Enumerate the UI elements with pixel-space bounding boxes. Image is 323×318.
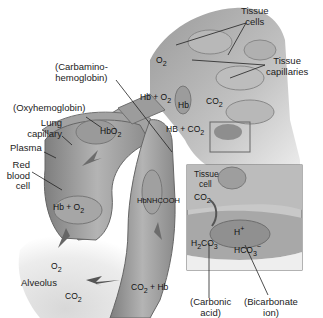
inset-cell-nucleus xyxy=(218,167,246,189)
label-line: cell xyxy=(194,180,219,190)
tissue-cell-shape xyxy=(216,66,264,90)
chem-sub: 2 xyxy=(78,296,82,304)
label-line: acid) xyxy=(190,308,231,318)
label-alveolus: Alveolus xyxy=(21,278,57,289)
chem-hb-tissue: Hb xyxy=(178,101,189,110)
label-line: capillary xyxy=(22,129,62,140)
chem-hbnhcooh: HbNHCOOH xyxy=(137,196,180,205)
label-line: hemoglobin) xyxy=(55,73,108,84)
chem-o2-alveolus: O2 xyxy=(51,262,62,275)
chem-text: CO xyxy=(194,192,207,202)
chem-text: HbO xyxy=(100,126,117,136)
label-line: Red xyxy=(0,160,30,171)
tissue-cell-shape xyxy=(226,100,274,124)
label-line: (Carbamino- xyxy=(55,62,108,73)
chem-text: Hb + O xyxy=(53,202,80,212)
red-blood-cell-shape xyxy=(142,170,162,214)
chem-sub: 2 xyxy=(144,287,148,295)
chem-co2-plus-hb: CO2 + Hb xyxy=(131,283,168,296)
chem-text: CO xyxy=(131,282,144,292)
label-tissue-capillaries: Tissue capillaries xyxy=(266,56,308,77)
label-line: (Bicarbonate xyxy=(244,297,298,308)
chem-inset-co2: CO2 xyxy=(194,193,211,206)
label-red-blood-cell: Red blood cell xyxy=(0,160,30,192)
chem-h-plus: H+ xyxy=(234,225,244,237)
chem-sup: − xyxy=(257,243,261,251)
chem-sub: 2 xyxy=(58,266,62,274)
chem-sub: 2 xyxy=(167,97,171,105)
label-line: capillaries xyxy=(266,67,308,78)
chem-text: HCO xyxy=(234,245,253,255)
label-line: ion) xyxy=(244,308,298,318)
chem-h2co3: H2CO3 xyxy=(191,239,218,252)
label-bicarbonate-ion: (Bicarbonate ion) xyxy=(244,297,298,318)
chem-text: CO xyxy=(201,238,214,248)
chem-hb-plus-o2-tissue: Hb + O2 xyxy=(140,93,171,106)
chem-hbo2: HbO2 xyxy=(100,127,121,140)
chem-sub: 2 xyxy=(207,197,211,205)
label-inset-tissue-cell: Tissue cell xyxy=(194,170,219,189)
chem-text: + Hb xyxy=(150,282,168,292)
chem-text: HB + CO xyxy=(166,124,200,134)
chem-sup: + xyxy=(240,225,244,233)
label-line: Tissue xyxy=(241,6,269,17)
label-tissue-cells: Tissue cells xyxy=(241,6,269,27)
chem-hco3: HCO3− xyxy=(234,243,261,259)
chem-sub: 2 xyxy=(219,101,223,109)
label-line: cell xyxy=(0,181,30,192)
chem-text: CO xyxy=(206,96,219,106)
chem-text: CO xyxy=(65,291,78,301)
label-carbamino-hemoglobin: (Carbamino- hemoglobin) xyxy=(55,62,108,83)
red-blood-cell-shape xyxy=(214,124,242,140)
chem-sub: 2 xyxy=(200,129,204,137)
chem-sub: 2 xyxy=(80,207,84,215)
chem-text: O xyxy=(156,55,163,65)
label-line: Lung xyxy=(22,118,62,129)
label-line: cells xyxy=(241,17,269,28)
chem-text: Hb + O xyxy=(140,92,167,102)
chem-sub: 2 xyxy=(163,60,167,68)
diagram-illustration xyxy=(0,0,323,318)
label-line: (Carbonic xyxy=(190,297,231,308)
tissue-cell-shape xyxy=(188,30,232,54)
chem-co2-alveolus: CO2 xyxy=(65,292,82,305)
chem-hb-plus-o2-rbc: Hb + O2 xyxy=(53,203,84,216)
gas-exchange-diagram: Tissue cells Tissue capillaries (Carbami… xyxy=(0,0,323,318)
label-line: Tissue xyxy=(266,56,308,67)
chem-sub: 3 xyxy=(214,243,218,251)
label-lung-capillary: Lung capillary xyxy=(22,118,62,139)
label-oxyhemoglobin: (Oxyhemoglobin) xyxy=(13,103,85,114)
chem-o2-tissue: O2 xyxy=(156,56,167,69)
chem-co2-tissue: CO2 xyxy=(206,97,223,110)
chem-hb-plus-co2: HB + CO2 xyxy=(166,125,204,138)
label-carbonic-acid: (Carbonic acid) xyxy=(190,297,231,318)
chem-text: O xyxy=(51,261,58,271)
chem-sub: 2 xyxy=(117,131,121,139)
label-plasma: Plasma xyxy=(10,143,42,154)
